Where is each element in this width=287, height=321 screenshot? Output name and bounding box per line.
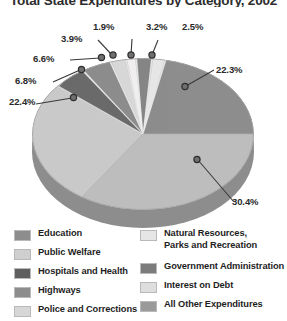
legend-swatch-public-welfare [14,249,31,260]
legend-item-interest-on-debt[interactable]: Interest on Debt [140,280,287,296]
legend-item-natural-resources[interactable]: Natural Resources, Parks and Recreation [140,228,287,258]
legend-label-government-administration: Government Administration [164,261,284,273]
legend-label-police-corrections: Police and Corrections [38,304,137,316]
legend-label-public-welfare: Public Welfare [38,247,101,259]
label-highways: 6.6% [33,53,54,64]
legend-swatch-highways [14,287,31,298]
legend-item-hospitals-health[interactable]: Hospitals and Health [14,266,140,282]
legend-swatch-police-corrections [14,306,31,317]
legend-swatch-government-administration [140,263,157,274]
pie-top-face [32,58,254,210]
legend-swatch-interest-on-debt [140,282,157,293]
legend-item-highways[interactable]: Highways [14,285,140,301]
legend-label-interest-on-debt: Interest on Debt [164,280,233,292]
legend-swatch-natural-resources [140,230,157,241]
label-public-welfare: 22.4% [9,96,35,107]
legend-column-right: Natural Resources, Parks and Recreation … [140,228,287,318]
label-natural-resources: 1.9% [93,21,114,32]
legend-item-education[interactable]: Education [14,228,140,244]
legend-label-hospitals-health: Hospitals and Health [38,266,128,278]
label-interest-on-debt: 2.5% [182,21,203,32]
label-education: 22.3% [216,64,242,75]
label-government-administration: 3.2% [146,21,167,32]
legend-label-education: Education [38,228,82,240]
legend-item-all-other[interactable]: All Other Expenditures [140,299,287,315]
legend-label-natural-resources-line2: Parks and Recreation [164,240,257,252]
label-hospitals-health: 6.8% [15,75,36,86]
legend: Education Public Welfare Hospitals and H… [0,228,287,311]
legend-label-all-other: All Other Expenditures [164,299,263,311]
legend-swatch-all-other [140,301,157,312]
legend-swatch-education [14,230,31,241]
legend-label-natural-resources: Natural Resources, Parks and Recreation [164,228,257,251]
label-all-other: 30.4% [232,196,258,207]
legend-swatch-hospitals-health [14,268,31,279]
legend-item-public-welfare[interactable]: Public Welfare [14,247,140,263]
legend-column-left: Education Public Welfare Hospitals and H… [14,228,140,321]
label-police-corrections: 3.9% [61,33,82,44]
pie-chart: 22.4% 6.8% 6.6% 3.9% 1.9% 3.2% 2.5% 22.3… [0,8,287,226]
pie-slices [32,58,254,210]
legend-label-natural-resources-line1: Natural Resources, [164,228,247,238]
legend-item-government-administration[interactable]: Government Administration [140,261,287,277]
legend-label-highways: Highways [38,285,81,297]
chart-title: Total State Expenditures by Category, 20… [0,0,287,7]
pie-graphic [32,50,254,226]
legend-item-police-corrections[interactable]: Police and Corrections [14,304,140,320]
